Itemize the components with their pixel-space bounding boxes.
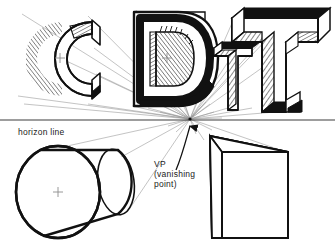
letter-t-small-shape	[214, 42, 260, 110]
vp-abbrev-text: VP	[154, 159, 195, 169]
vp-expand-line-2: point)	[154, 179, 195, 189]
letter-d-shape	[134, 12, 218, 106]
vanishing-point-marker	[188, 117, 191, 120]
vanishing-point-label: VP (vanishing point)	[154, 159, 195, 189]
perspective-drawing	[0, 0, 335, 248]
illustration-canvas: horizon line VP (vanishing point)	[0, 0, 335, 248]
horizon-line-label: horizon line	[18, 127, 64, 137]
vp-expand-line-1: (vanishing	[154, 169, 195, 179]
letter-c-shape	[26, 20, 100, 99]
construction-line	[190, 119, 212, 130]
letter-d-hatching	[156, 32, 194, 86]
cylinder-shape	[16, 146, 138, 238]
construction-line	[190, 119, 204, 140]
box-shape	[210, 136, 288, 238]
